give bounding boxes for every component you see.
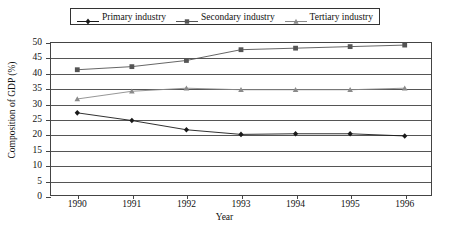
x-axis-tick-label: 1994: [286, 199, 305, 210]
data-point-marker: [293, 131, 298, 137]
legend-label-secondary-industry: Secondary industry: [201, 12, 275, 22]
legend-item-tertiary-industry[interactable]: Tertiary industry: [285, 12, 373, 22]
y-axis-tick-label: 25: [33, 114, 43, 124]
data-point-marker: [293, 46, 298, 51]
data-point-marker: [184, 127, 189, 133]
y-axis-tick: [46, 197, 51, 198]
y-axis-tick-label: 20: [33, 129, 43, 139]
series-secondary-industry: [75, 43, 407, 72]
y-axis-tick-label: 50: [33, 37, 43, 47]
gdp-composition-line-chart: Primary industry Secondary industry Tert…: [0, 0, 449, 233]
y-axis-tick-label: 45: [33, 52, 43, 62]
x-axis-tick-label: 1995: [341, 199, 360, 210]
legend-item-secondary-industry[interactable]: Secondary industry: [176, 12, 275, 22]
y-axis-tick-label: 0: [37, 191, 42, 201]
x-axis-title: Year: [0, 212, 449, 222]
secondary-industry-marker-icon: [176, 12, 198, 21]
data-point-marker: [402, 43, 407, 48]
x-axis-tick-label: 1990: [68, 199, 87, 210]
y-axis-tick-label: 5: [37, 176, 42, 186]
data-point-marker: [348, 131, 353, 137]
legend-item-primary-industry[interactable]: Primary industry: [77, 12, 166, 22]
series-primary-industry: [75, 110, 408, 139]
data-point-marker: [129, 118, 134, 124]
chart-legend: Primary industry Secondary industry Tert…: [70, 8, 380, 25]
x-axis-tick-label: 1991: [122, 199, 141, 210]
data-point-marker: [129, 64, 134, 69]
y-axis-tick-label: 10: [33, 160, 43, 170]
x-axis-tick-label: 1993: [232, 199, 251, 210]
tertiary-industry-marker-icon: [285, 12, 307, 21]
data-point-marker: [348, 44, 353, 49]
y-axis-tick-label: 40: [33, 68, 43, 78]
legend-label-primary-industry: Primary industry: [102, 12, 166, 22]
data-point-marker: [402, 133, 407, 139]
data-point-marker: [239, 47, 244, 52]
legend-label-tertiary-industry: Tertiary industry: [310, 12, 373, 22]
data-point-marker: [184, 58, 189, 63]
x-axis-tick-label: 1992: [177, 199, 196, 210]
x-axis-tick-labels: 1990199119921993199419951996: [50, 199, 432, 213]
data-point-marker: [75, 110, 80, 116]
data-point-marker: [75, 67, 80, 72]
primary-industry-marker-icon: [77, 12, 99, 21]
data-series-layer: [50, 42, 432, 196]
x-axis-tick-label: 1996: [395, 199, 414, 210]
data-point-marker: [238, 132, 243, 138]
y-axis-tick-label: 15: [33, 145, 43, 155]
y-axis-tick-label: 30: [33, 99, 43, 109]
series-tertiary-industry: [74, 85, 407, 101]
y-axis-tick-labels: 50454035302520151050: [0, 42, 47, 196]
y-axis-tick-label: 35: [33, 83, 43, 93]
